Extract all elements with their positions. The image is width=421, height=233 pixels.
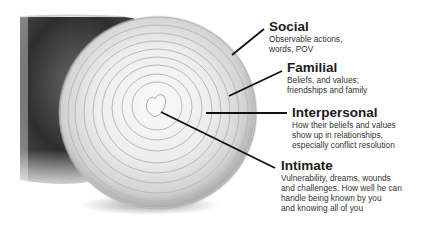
layer-interpersonal: Interpersonal How their beliefs and valu…	[292, 106, 396, 151]
leader-line-social	[232, 29, 264, 55]
layer-familial: Familial Beliefs, and values; friendship…	[287, 61, 367, 96]
layer-desc-intimate: Vulnerability, dreams, wounds and challe…	[281, 174, 402, 214]
layer-social: Social Observable actions, words, POV	[269, 20, 342, 55]
layer-desc-social: Observable actions, words, POV	[269, 35, 342, 55]
layer-intimate: Intimate Vulnerability, dreams, wounds a…	[281, 159, 402, 214]
layer-desc-interpersonal: How their beliefs and values show up in …	[292, 121, 396, 151]
layer-title-intimate: Intimate	[281, 159, 402, 173]
layer-title-social: Social	[269, 20, 342, 34]
layer-desc-familial: Beliefs, and values; friendships and fam…	[287, 76, 367, 96]
layer-title-familial: Familial	[287, 61, 367, 75]
layer-title-interpersonal: Interpersonal	[292, 106, 396, 120]
onion-layers-diagram: Social Observable actions, words, POV Fa…	[0, 0, 421, 233]
